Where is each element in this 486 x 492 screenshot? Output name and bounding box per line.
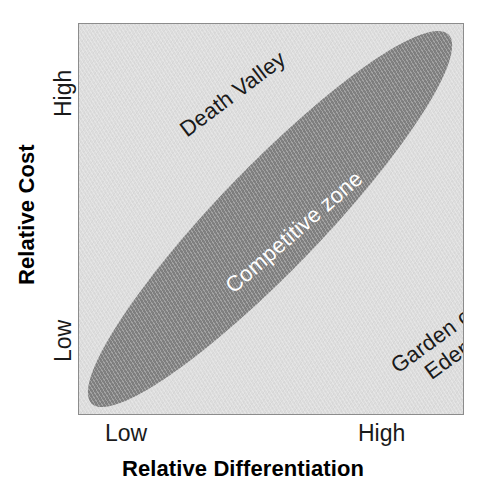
y-axis-title: Relative Cost — [14, 144, 40, 285]
x-tick-label-low: Low — [105, 420, 147, 447]
strategy-chart-figure: Death Valley Competitive zone Garden ofE… — [0, 0, 486, 492]
x-tick-label-high: High — [358, 420, 405, 447]
y-tick-label-low: Low — [50, 320, 77, 362]
x-axis-title: Relative Differentiation — [0, 456, 486, 482]
plot-area: Death Valley Competitive zone Garden ofE… — [78, 23, 464, 415]
y-tick-label-high: High — [50, 70, 77, 117]
